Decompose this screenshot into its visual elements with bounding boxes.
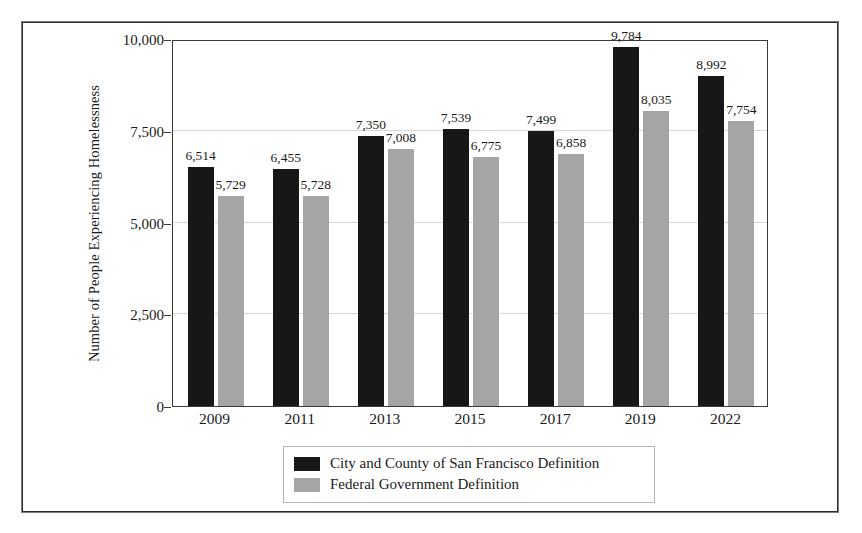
- bar-group: 6,5145,729: [188, 41, 244, 406]
- bar-value-label: 8,992: [696, 57, 726, 73]
- bar-value-label: 6,775: [471, 138, 501, 154]
- bar-value-label: 9,784: [611, 28, 641, 44]
- x-tick-label: 2022: [710, 410, 741, 428]
- bar-value-label: 5,728: [301, 177, 331, 193]
- bar[interactable]: 6,858: [558, 154, 584, 406]
- y-tick-mark: [164, 40, 171, 41]
- bar[interactable]: 8,992: [698, 76, 724, 406]
- y-tick-mark: [164, 224, 171, 225]
- x-tick-label: 2015: [455, 410, 486, 428]
- y-tick-mark: [164, 407, 171, 408]
- bar-value-label: 5,729: [215, 177, 245, 193]
- y-tick-label: 10,000: [100, 32, 164, 49]
- bar-group: 7,4996,858: [528, 41, 584, 406]
- bar[interactable]: 8,035: [643, 111, 669, 406]
- x-axis-ticks: 2009201120132015201720192022: [172, 410, 768, 436]
- bar-value-label: 6,455: [271, 150, 301, 166]
- x-tick-label: 2013: [369, 410, 400, 428]
- x-tick-label: 2009: [199, 410, 230, 428]
- y-axis-ticks: 02,5005,0007,50010,000: [98, 40, 164, 407]
- bar-value-label: 7,499: [526, 112, 556, 128]
- y-tick-label: 0: [100, 399, 164, 416]
- bar[interactable]: 5,729: [218, 196, 244, 406]
- bar-value-label: 7,754: [726, 102, 756, 118]
- bar[interactable]: 7,539: [443, 129, 469, 406]
- legend-swatch: [294, 478, 320, 492]
- x-tick-label: 2017: [540, 410, 571, 428]
- bar[interactable]: 6,455: [273, 169, 299, 406]
- bar[interactable]: 7,754: [728, 121, 754, 406]
- bar[interactable]: 7,350: [358, 136, 384, 406]
- bar-group: 6,4555,728: [273, 41, 329, 406]
- y-tick-label: 2,500: [100, 307, 164, 324]
- bar-value-label: 6,514: [185, 148, 215, 164]
- bar[interactable]: 5,728: [303, 196, 329, 406]
- y-tick-mark: [164, 132, 171, 133]
- bar[interactable]: 6,775: [473, 157, 499, 406]
- bar[interactable]: 7,008: [388, 149, 414, 406]
- x-tick-label: 2019: [625, 410, 656, 428]
- legend-item[interactable]: City and County of San Francisco Definit…: [294, 453, 644, 474]
- bar-group: 7,3507,008: [358, 41, 414, 406]
- bar-group: 9,7848,035: [613, 41, 669, 406]
- y-tick-label: 5,000: [100, 215, 164, 232]
- bar-value-label: 7,539: [441, 110, 471, 126]
- bar[interactable]: 9,784: [613, 47, 639, 406]
- x-tick-label: 2011: [284, 410, 314, 428]
- chart-legend: City and County of San Francisco Definit…: [283, 446, 655, 503]
- legend-label: Federal Government Definition: [330, 476, 519, 493]
- bar-value-label: 7,008: [386, 130, 416, 146]
- bar-group: 7,5396,775: [443, 41, 499, 406]
- bar-value-label: 7,350: [356, 117, 386, 133]
- plot-area: 6,5145,7296,4555,7287,3507,0087,5396,775…: [172, 40, 768, 407]
- legend-swatch: [294, 457, 320, 471]
- bar[interactable]: 7,499: [528, 131, 554, 406]
- bar[interactable]: 6,514: [188, 167, 214, 406]
- y-tick-mark: [164, 315, 171, 316]
- legend-label: City and County of San Francisco Definit…: [330, 455, 599, 472]
- bar-group: 8,9927,754: [698, 41, 754, 406]
- chart-figure: Number of People Experiencing Homelessne…: [0, 0, 862, 533]
- legend-item[interactable]: Federal Government Definition: [294, 474, 644, 495]
- bar-value-label: 8,035: [641, 92, 671, 108]
- y-tick-label: 7,500: [100, 123, 164, 140]
- bar-value-label: 6,858: [556, 135, 586, 151]
